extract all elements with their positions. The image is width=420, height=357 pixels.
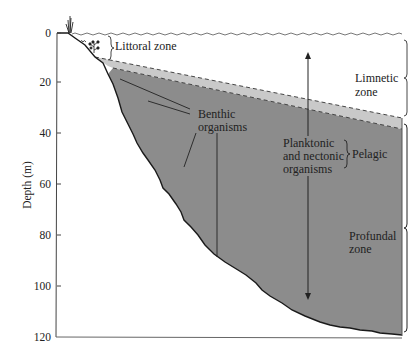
profundal-label-line1: Profundal: [349, 229, 397, 243]
y-axis-label: Depth (m): [21, 161, 34, 209]
y-tick-80: 80: [40, 229, 52, 241]
emergent-plant-icon: [66, 16, 73, 33]
profundal-region: [108, 68, 402, 335]
benthic-label-line1: Benthic: [198, 107, 235, 121]
littoral-brace: [108, 36, 114, 60]
pelagic-label: Pelagic: [352, 147, 387, 161]
profundal-brace: [404, 124, 407, 332]
limnetic-label-line2: zone: [355, 85, 378, 99]
planktonic-label-line1: Planktonic: [283, 136, 334, 150]
lake-zonation-diagram: 0 20 40 60 80 100 120 Depth (m) Littoral…: [0, 0, 420, 357]
water-surface: [72, 33, 402, 35]
x-baseline: [56, 337, 402, 338]
limnetic-label-line1: Limnetic: [355, 71, 398, 85]
planktonic-label-line3: organisms: [283, 162, 332, 176]
y-axis-ticks: [57, 33, 61, 286]
y-tick-40: 40: [40, 127, 52, 139]
y-tick-100: 100: [34, 280, 52, 292]
planktonic-label-line2: and nectonic: [283, 149, 344, 163]
limnetic-brace: [404, 40, 407, 116]
y-tick-60: 60: [40, 178, 52, 190]
y-tick-120: 120: [34, 331, 52, 343]
profundal-label-line2: zone: [349, 242, 372, 256]
y-tick-20: 20: [40, 76, 52, 88]
y-tick-0: 0: [45, 27, 51, 39]
arrow-up-icon: [305, 52, 311, 59]
y-axis: [56, 33, 57, 337]
littoral-zone-label: Littoral zone: [115, 39, 177, 53]
benthic-label-line2: organisms: [198, 120, 247, 134]
